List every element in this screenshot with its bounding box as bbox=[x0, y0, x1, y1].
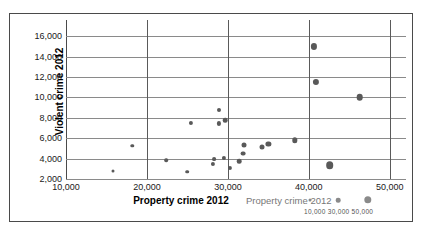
data-point bbox=[237, 159, 242, 164]
gridline-horizontal bbox=[66, 36, 406, 37]
data-point bbox=[189, 121, 193, 125]
gridline-vertical bbox=[228, 20, 229, 179]
gridline-horizontal bbox=[66, 97, 406, 98]
legend-bubble bbox=[309, 199, 312, 202]
data-point bbox=[217, 121, 221, 125]
data-point bbox=[217, 108, 221, 112]
x-axis-tick-label: 20,000 bbox=[133, 182, 161, 192]
x-axis-tick-label: 10,000 bbox=[52, 182, 80, 192]
data-point bbox=[313, 79, 319, 85]
gridline-horizontal bbox=[66, 57, 406, 58]
data-point bbox=[186, 170, 190, 174]
data-point bbox=[210, 162, 214, 166]
gridline-horizontal bbox=[66, 138, 406, 139]
data-point bbox=[212, 157, 216, 161]
legend-bubble bbox=[336, 198, 341, 203]
data-point bbox=[165, 158, 169, 162]
gridline-vertical bbox=[147, 20, 148, 179]
x-axis-tick-label: 50,000 bbox=[376, 182, 404, 192]
chart-legend: Property crime 2012 10,000 30,000 50,000 bbox=[246, 193, 406, 219]
data-point bbox=[357, 94, 364, 101]
data-point bbox=[227, 166, 231, 170]
gridline-vertical bbox=[309, 20, 310, 179]
y-axis-tick-label: 4,000 bbox=[39, 154, 62, 164]
legend-bubble bbox=[364, 196, 371, 203]
data-point bbox=[241, 151, 246, 156]
gridline-horizontal bbox=[66, 77, 406, 78]
data-point bbox=[326, 161, 334, 169]
data-point bbox=[259, 144, 264, 149]
x-axis-tick-label: 30,000 bbox=[214, 182, 242, 192]
data-point bbox=[292, 138, 297, 143]
data-point bbox=[311, 43, 317, 49]
chart-figure: 2,0004,0006,0008,00010,00012,00014,00016… bbox=[0, 0, 436, 241]
y-axis-title-wrap: Violent crime 2012 bbox=[24, 30, 38, 160]
gridline-horizontal bbox=[66, 159, 406, 160]
data-point bbox=[242, 143, 247, 148]
x-axis-tick-label: 40,000 bbox=[295, 182, 323, 192]
gridline-vertical bbox=[390, 20, 391, 179]
gridline-horizontal bbox=[66, 118, 406, 119]
data-point bbox=[131, 144, 134, 147]
legend-title: Property crime 2012 bbox=[246, 195, 332, 206]
data-point bbox=[111, 169, 114, 172]
data-point bbox=[266, 141, 271, 146]
gridline-horizontal bbox=[66, 179, 406, 180]
y-axis-title: Violent crime 2012 bbox=[54, 37, 65, 147]
plot-area bbox=[66, 26, 406, 179]
legend-size-labels: 10,000 30,000 50,000 bbox=[304, 208, 373, 215]
data-point bbox=[223, 118, 228, 123]
